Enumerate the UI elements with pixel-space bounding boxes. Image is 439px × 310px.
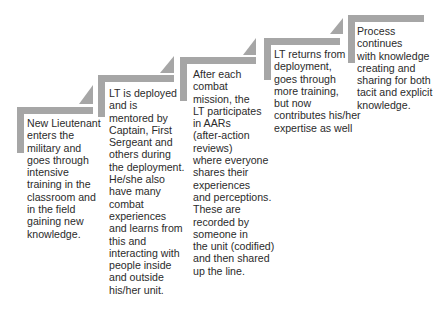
step-arrow-triangle-2	[160, 56, 174, 73]
staircase-diagram: New Lieutenant enters the military and g…	[0, 0, 439, 310]
step-1-text: New Lieutenant enters the military and g…	[27, 117, 107, 240]
step-arrow-triangle-3	[243, 38, 256, 55]
step-3-top-bar	[180, 57, 256, 64]
step-5-left-bar	[348, 15, 355, 63]
step-3-text: After each combat mission, the LT partic…	[193, 68, 277, 277]
step-3-left-bar	[180, 57, 187, 101]
step-2-left-bar	[98, 75, 105, 117]
step-1-left-bar	[17, 107, 24, 153]
step-2-text: LT is deployed and is mentored by Captai…	[109, 87, 193, 296]
step-4-left-bar	[264, 38, 271, 80]
step-arrow-triangle-4	[330, 18, 343, 34]
step-1-top-bar	[17, 107, 93, 114]
step-arrow-triangle-1	[79, 85, 93, 104]
step-4-top-bar	[264, 38, 340, 45]
step-5-text: Process continues with knowledge creatin…	[357, 25, 439, 111]
step-2-top-bar	[98, 75, 174, 82]
step-5-top-bar	[348, 15, 424, 22]
